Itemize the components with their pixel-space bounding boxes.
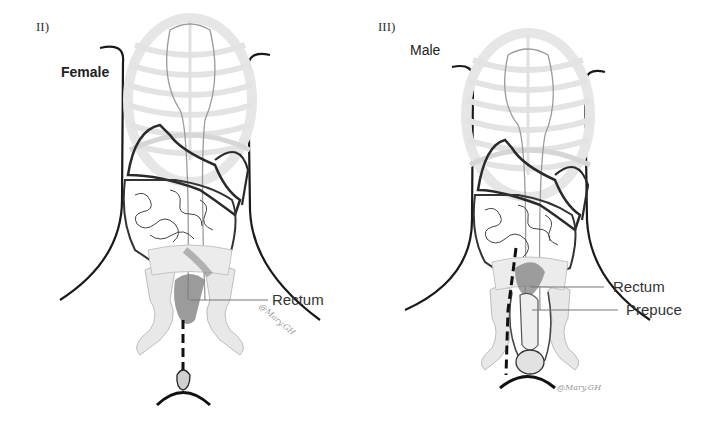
panel-label-ii: II) bbox=[36, 19, 49, 35]
callout-rectum-female: Rectum bbox=[272, 291, 324, 308]
panel-label-iii: III) bbox=[378, 19, 395, 35]
artist-signature: @Mary.GH bbox=[557, 383, 601, 392]
anatomy-figure: II) Female Rectum @Mary.GH III) Male Rec… bbox=[0, 0, 713, 423]
body-outline-left bbox=[60, 47, 123, 300]
rectum-shading bbox=[174, 274, 205, 324]
callout-rectum-male: Rectum bbox=[613, 278, 665, 295]
male-diagram bbox=[405, 33, 650, 388]
sex-label-male: Male bbox=[410, 42, 440, 58]
sex-label-female: Female bbox=[61, 64, 109, 80]
body-outline-right bbox=[248, 54, 320, 320]
prepuce-shape bbox=[520, 293, 538, 350]
callout-prepuce: Prepuce bbox=[626, 301, 682, 318]
